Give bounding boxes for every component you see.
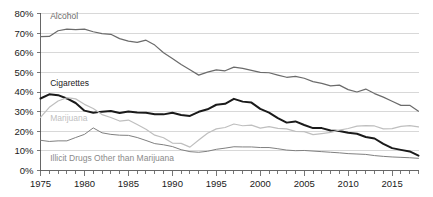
y-axis-tick-label: 20% (14, 126, 34, 137)
x-axis-labels-group: 197519801985199019952000200520102015 (30, 178, 403, 189)
y-axis-tick-label: 80% (14, 8, 34, 19)
x-axis-tick-label: 1980 (74, 178, 95, 189)
x-axis-tick-label: 1995 (206, 178, 227, 189)
x-axis-tick-label: 2010 (338, 178, 359, 189)
y-axis-tick-label: 50% (14, 67, 34, 78)
x-axis-tick-label: 1975 (30, 178, 51, 189)
y-axis-tick-label: 40% (14, 86, 34, 97)
y-axis-tick-label: 70% (14, 28, 34, 39)
x-axis-tick-label: 2000 (250, 178, 271, 189)
y-axis-tick-label: 60% (14, 47, 34, 58)
series-label-1: Cigarettes (50, 78, 89, 88)
y-axis-tick-label: 10% (14, 145, 34, 156)
x-axis-tick-label: 1985 (118, 178, 139, 189)
y-axis-tick-label: 0% (20, 165, 34, 176)
y-axis-tick-label: 30% (14, 106, 34, 117)
x-axis-tick-label: 1990 (162, 178, 183, 189)
chart-container: 0%10%20%30%40%50%60%70%80% 1975198019851… (0, 0, 433, 197)
x-axis-tick-label: 2005 (294, 178, 315, 189)
series-label-2: Marijuana (50, 113, 88, 123)
x-axis-tick-label: 2015 (382, 178, 403, 189)
line-chart: 0%10%20%30%40%50%60%70%80% 1975198019851… (0, 0, 433, 197)
series-label-3: Illicit Drugs Other than Marijuana (50, 153, 174, 163)
series-label-0: Alcohol (50, 11, 78, 21)
